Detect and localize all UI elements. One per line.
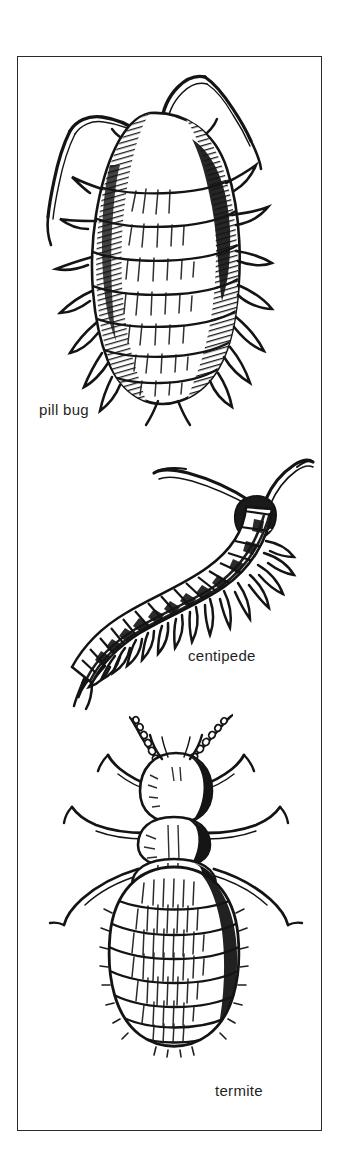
label-termite: termite	[215, 1083, 263, 1098]
centipede-antenna-right	[266, 460, 313, 505]
centipede-antenna-left	[154, 468, 252, 507]
centipede-terminal-legs	[74, 679, 92, 709]
illustration-plate-frame: pill bug	[17, 56, 322, 1131]
figure-centipede	[26, 457, 316, 692]
label-pill-bug: pill bug	[39, 402, 89, 417]
termite-antenna-right	[189, 715, 233, 762]
figure-pill-bug	[32, 69, 292, 419]
centipede-legs	[78, 541, 294, 698]
label-centipede: centipede	[188, 648, 256, 663]
figure-termite	[46, 717, 311, 1057]
